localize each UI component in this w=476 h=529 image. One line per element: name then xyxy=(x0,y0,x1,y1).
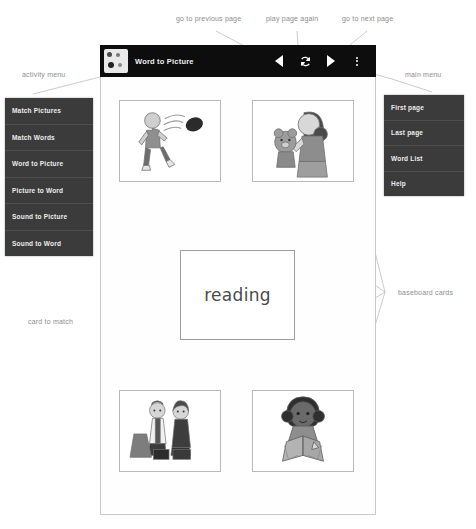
refresh-loop-icon xyxy=(299,55,312,68)
girl-reading-book-illustration xyxy=(253,391,353,471)
annotation-next-page: go to next page xyxy=(342,15,393,22)
boy-kicking-ball-illustration xyxy=(120,101,220,181)
triangle-right-icon xyxy=(327,55,335,67)
annotation-replay-page: play page again xyxy=(266,15,318,22)
two-children-with-bags-illustration xyxy=(120,391,220,471)
activity-menu-item-word-to-picture[interactable]: Word to Picture xyxy=(5,151,93,178)
replay-page-button[interactable] xyxy=(292,48,318,74)
app-toolbar: Word to Picture xyxy=(100,45,376,77)
annotation-main-menu: main menu xyxy=(405,71,441,78)
annotation-prev-page: go to previous page xyxy=(176,15,241,22)
main-menu-item-first-page[interactable]: First page xyxy=(384,95,464,121)
card-to-match[interactable]: reading xyxy=(180,250,295,340)
toolbar-title: Word to Picture xyxy=(135,57,266,66)
triangle-left-icon xyxy=(275,55,283,67)
activity-menu-item-match-pictures[interactable]: Match Pictures xyxy=(5,98,93,125)
overflow-menu-button[interactable] xyxy=(344,48,370,74)
next-page-button[interactable] xyxy=(318,48,344,74)
main-menu[interactable]: First page Last page Word List Help xyxy=(384,95,464,196)
main-menu-item-word-list[interactable]: Word List xyxy=(384,146,464,172)
baseboard-card-top-right[interactable] xyxy=(252,100,354,182)
activity-menu[interactable]: Match Pictures Match Words Word to Pictu… xyxy=(5,98,93,256)
baseboard-card-bottom-right[interactable] xyxy=(252,390,354,472)
prev-page-button[interactable] xyxy=(266,48,292,74)
annotation-card-to-match: card to match xyxy=(28,318,73,325)
card-to-match-word: reading xyxy=(204,285,271,305)
annotation-baseboard-cards: baseboard cards xyxy=(398,289,453,296)
baseboard-card-top-left[interactable] xyxy=(119,100,221,182)
activity-menu-item-picture-to-word[interactable]: Picture to Word xyxy=(5,178,93,205)
activity-menu-item-match-words[interactable]: Match Words xyxy=(5,125,93,152)
annotation-activity-menu: activity menu xyxy=(22,71,65,78)
baseboard-card-bottom-left[interactable] xyxy=(119,390,221,472)
kebab-menu-icon xyxy=(356,57,358,66)
app-grid-icon xyxy=(104,49,128,73)
activity-menu-item-sound-to-word[interactable]: Sound to Word xyxy=(5,231,93,257)
main-menu-item-help[interactable]: Help xyxy=(384,172,464,197)
activity-menu-item-sound-to-picture[interactable]: Sound to Picture xyxy=(5,204,93,231)
main-menu-item-last-page[interactable]: Last page xyxy=(384,121,464,147)
girl-holding-teddy-bear-illustration xyxy=(253,101,353,181)
